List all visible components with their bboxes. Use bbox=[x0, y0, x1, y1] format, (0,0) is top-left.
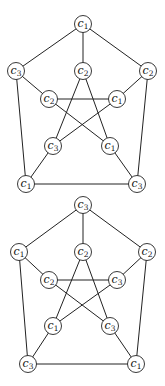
petersen-graphs-diagram: c1c3c2c1c3c2c2c1c3c1c3c1c2c3c1c2c2c3c1c3 bbox=[0, 0, 165, 386]
graph-node: c2 bbox=[41, 91, 58, 108]
graph-node: c3 bbox=[8, 63, 25, 80]
graph-edge bbox=[19, 205, 83, 252]
graph-node: c3 bbox=[109, 272, 126, 289]
graph-edge bbox=[83, 252, 110, 326]
graph-node: c1 bbox=[102, 138, 119, 155]
graph-node: c1 bbox=[109, 91, 126, 108]
graph-edge bbox=[83, 71, 110, 146]
graph-node: c3 bbox=[20, 356, 37, 373]
graph-edge bbox=[16, 71, 26, 184]
graph-node: c1 bbox=[45, 318, 62, 335]
graph-node: c3 bbox=[129, 176, 146, 193]
graph-node: c2 bbox=[75, 244, 92, 261]
graph-edge bbox=[137, 71, 148, 184]
graph-node: c1 bbox=[11, 244, 28, 261]
graph-edge bbox=[16, 24, 83, 71]
graph-node: c2 bbox=[75, 63, 92, 80]
graph-node: c3 bbox=[45, 138, 62, 155]
graph-node: c3 bbox=[75, 197, 92, 214]
graph-edge bbox=[136, 252, 147, 364]
graph-edge bbox=[83, 205, 147, 252]
petersen-coloring-1: c1c3c2c1c3c2c2c1c3c1 bbox=[8, 16, 157, 193]
graph-node: c3 bbox=[102, 318, 119, 335]
petersen-coloring-2: c3c1c2c3c1c2c2c3c1c3 bbox=[11, 197, 156, 373]
graph-node: c2 bbox=[139, 244, 156, 261]
graph-node: c1 bbox=[128, 356, 145, 373]
graph-edge bbox=[19, 252, 28, 364]
graph-node: c2 bbox=[140, 63, 157, 80]
graph-node: c1 bbox=[18, 176, 35, 193]
graph-node: c2 bbox=[41, 272, 58, 289]
graph-edge bbox=[83, 24, 148, 71]
graph-node: c1 bbox=[75, 16, 92, 33]
